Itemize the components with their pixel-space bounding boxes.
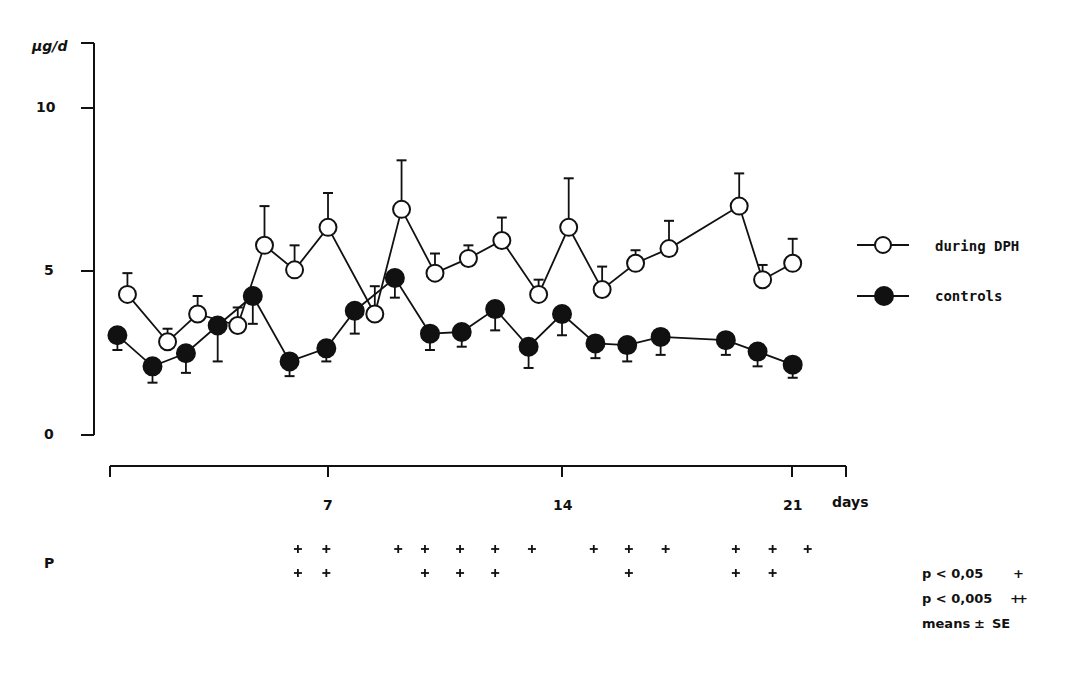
- data-point-controls: [486, 300, 504, 318]
- data-point-during-dph: [660, 240, 677, 257]
- data-point-during-dph: [286, 261, 303, 278]
- y-axis: [81, 43, 94, 435]
- data-point-during-dph: [784, 255, 801, 272]
- data-point-during-dph: [426, 265, 443, 282]
- se-label: SE: [992, 616, 1010, 631]
- data-point-controls: [717, 331, 735, 349]
- data-point-controls: [177, 344, 195, 362]
- y-tick-label-10: 10: [36, 99, 55, 115]
- p005-symbol: +: [1013, 566, 1024, 581]
- data-point-controls: [453, 323, 471, 341]
- data-point-during-dph: [754, 271, 771, 288]
- data-point-during-dph: [627, 255, 644, 272]
- data-point-controls: [346, 302, 364, 320]
- y-tick-label-5: 5: [44, 262, 54, 278]
- data-point-during-dph: [159, 333, 176, 350]
- series-line: [127, 206, 792, 342]
- series-controls: [108, 269, 801, 383]
- x-tick-label-7: 7: [323, 497, 333, 513]
- data-point-during-dph: [229, 317, 246, 334]
- data-point-controls: [421, 325, 439, 343]
- data-point-during-dph: [594, 281, 611, 298]
- data-point-controls: [281, 352, 299, 370]
- data-point-during-dph: [460, 250, 477, 267]
- x-tick-label-14: 14: [553, 497, 572, 513]
- legend-marker-during-dph: [857, 237, 909, 253]
- data-point-controls: [386, 269, 404, 287]
- data-point-controls: [784, 356, 802, 374]
- data-point-controls: [108, 326, 126, 344]
- p0005-symbol: ++: [1010, 591, 1024, 606]
- y-axis-unit: µg/d: [32, 38, 67, 54]
- data-point-controls: [618, 336, 636, 354]
- significance-marks: [294, 545, 812, 577]
- p005-label: p < 0,05: [922, 566, 983, 581]
- means-label: means: [922, 616, 970, 631]
- data-point-controls: [244, 287, 262, 305]
- legend-label-controls: controls: [935, 288, 1002, 304]
- legend-label-during-dph: during DPH: [935, 238, 1019, 254]
- x-axis: [110, 466, 846, 477]
- legend-marker-controls: [857, 287, 909, 305]
- data-point-controls: [520, 338, 538, 356]
- data-point-during-dph: [189, 306, 206, 323]
- p0005-label: p < 0,005: [922, 591, 992, 606]
- data-point-controls: [652, 328, 670, 346]
- p-row-label: P: [44, 555, 54, 571]
- data-point-controls: [586, 334, 604, 352]
- data-point-during-dph: [560, 219, 577, 236]
- data-point-during-dph: [530, 286, 547, 303]
- data-point-during-dph: [731, 198, 748, 215]
- data-point-controls: [553, 305, 571, 323]
- y-tick-label-0: 0: [44, 426, 54, 442]
- plus-minus-symbol: ±: [974, 616, 985, 631]
- data-point-during-dph: [393, 201, 410, 218]
- data-point-during-dph: [493, 232, 510, 249]
- x-axis-unit: days: [832, 494, 869, 510]
- data-point-during-dph: [119, 286, 136, 303]
- data-point-during-dph: [366, 306, 383, 323]
- x-tick-label-21: 21: [783, 497, 802, 513]
- data-point-controls: [144, 357, 162, 375]
- data-point-controls: [317, 339, 335, 357]
- line-chart: [0, 0, 1072, 686]
- data-point-during-dph: [320, 219, 337, 236]
- data-point-controls: [749, 343, 767, 361]
- data-point-during-dph: [256, 237, 273, 254]
